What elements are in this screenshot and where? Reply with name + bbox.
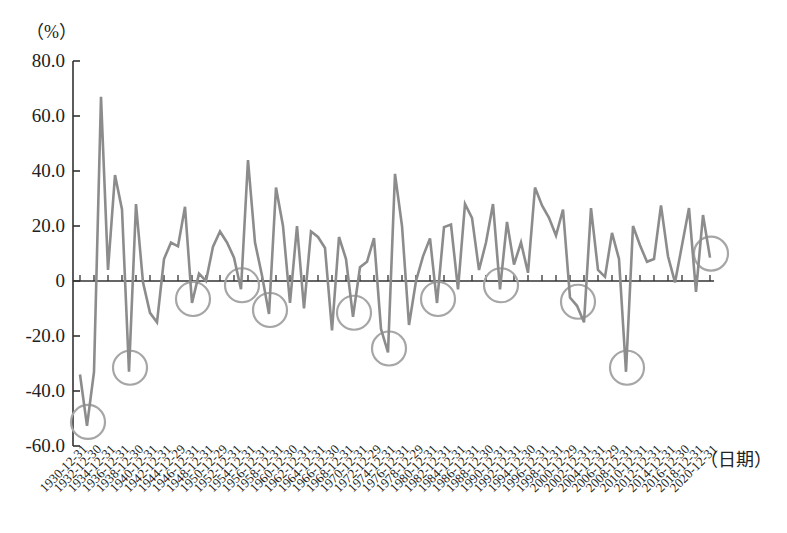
y-tick-label: 40.0	[32, 160, 65, 181]
data-line	[80, 97, 710, 426]
highlight-circle	[561, 285, 595, 319]
y-tick-label: 20.0	[32, 215, 65, 236]
y-tick-label: -60.0	[25, 435, 65, 456]
y-tick-label: 80.0	[32, 50, 65, 71]
line-chart: （%） 80.060.040.020.00-20.0-40.0-60.0 193…	[0, 0, 787, 533]
y-tick-label: -20.0	[25, 325, 65, 346]
y-tick-label: 60.0	[32, 105, 65, 126]
y-axis-title: （%）	[26, 22, 77, 42]
y-axis-unit-label: （%）	[26, 22, 77, 42]
y-axis: 80.060.040.020.00-20.0-40.0-60.0	[25, 50, 80, 456]
y-tick-label: -40.0	[25, 380, 65, 401]
x-axis-title: （日期）	[700, 449, 772, 470]
highlight-circles	[71, 237, 728, 439]
y-tick-label: 0	[56, 270, 66, 291]
